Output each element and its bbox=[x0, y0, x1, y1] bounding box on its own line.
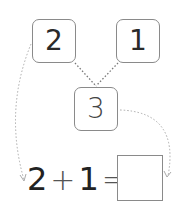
plus-sign: + bbox=[50, 162, 75, 197]
answer-box[interactable] bbox=[117, 155, 163, 201]
whole-value: 3 bbox=[87, 95, 105, 123]
part-right-value: 1 bbox=[129, 27, 147, 55]
equation: 2 + 1 = bbox=[27, 159, 130, 199]
equation-right-operand: 1 bbox=[79, 160, 99, 198]
part-box-right: 1 bbox=[116, 19, 160, 63]
part-left-value: 2 bbox=[45, 27, 63, 55]
whole-box: 3 bbox=[74, 87, 118, 131]
equation-left-operand: 2 bbox=[27, 160, 47, 198]
part-box-left: 2 bbox=[32, 19, 76, 63]
